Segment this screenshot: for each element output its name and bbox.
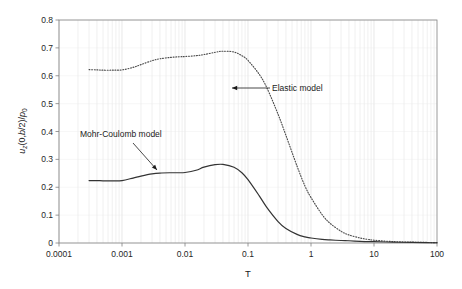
- x-tick-label: 0.001: [111, 249, 133, 259]
- y-axis-half: /2)/: [17, 116, 27, 130]
- y-tick-label: 0.5: [41, 99, 53, 109]
- chart-canvas: 00.10.20.30.40.50.60.70.8 0.00010.0010.0…: [0, 0, 462, 289]
- y-tick-label: 0.8: [41, 15, 53, 25]
- y-axis-zero-subscript: 0: [21, 108, 28, 112]
- y-tick-label: 0.6: [41, 71, 53, 81]
- y-tick-label: 0.3: [41, 154, 53, 164]
- x-tick-label: 0.01: [177, 249, 194, 259]
- elastic-annotation-label: Elastic model: [272, 83, 323, 93]
- x-axis-title: T: [245, 268, 251, 279]
- chart-figure: 00.10.20.30.40.50.60.70.8 0.00010.0010.0…: [0, 0, 462, 289]
- y-tick-label: 0: [48, 238, 53, 248]
- x-tick-label: 0.1: [242, 249, 254, 259]
- y-tick-label: 0.4: [41, 127, 53, 137]
- y-tick-label: 0.1: [41, 210, 53, 220]
- y-tick-label: 0.2: [41, 182, 53, 192]
- mohr-coulomb-annotation-label: Mohr-Coulomb model: [80, 129, 162, 139]
- x-tick-label: 100: [430, 249, 444, 259]
- y-tick-label: 0.7: [41, 43, 53, 53]
- chart-background: [0, 0, 462, 289]
- x-tick-label: 0.0001: [46, 249, 72, 259]
- x-tick-label: 1: [309, 249, 314, 259]
- y-axis-open: (0,: [17, 135, 27, 146]
- x-tick-label: 10: [369, 249, 379, 259]
